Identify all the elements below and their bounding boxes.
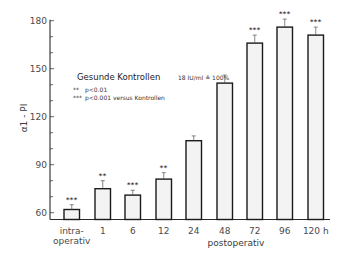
bars: *******************: [64, 10, 324, 219]
x-axis-title: postoperativ: [208, 238, 265, 248]
x-tick-label: 48: [219, 226, 231, 236]
significance-marker: ***: [66, 196, 78, 204]
x-tick-label: 12: [158, 226, 169, 236]
bar-8: ***: [277, 10, 293, 219]
bar-6: [217, 75, 233, 219]
significance-marker: ***: [279, 10, 291, 18]
legend-title: Gesunde Kontrollen: [77, 72, 160, 82]
y-tick-label: 150: [30, 64, 47, 74]
y-tick-label: 60: [36, 208, 48, 218]
significance-marker: ***: [249, 26, 261, 34]
x-tick-label: intra-: [60, 226, 84, 236]
significance-marker: ***: [127, 181, 139, 189]
y-axis: 6090120150180: [30, 16, 54, 220]
y-tick-label: 180: [30, 16, 47, 26]
x-tick-label: 120 h: [303, 226, 329, 236]
legend-reference: 18 IU/ml ≙ 100%: [178, 74, 230, 81]
x-tick-label: 96: [279, 226, 291, 236]
x-tick-label: 6: [130, 226, 136, 236]
legend: Gesunde Kontrollen 18 IU/ml ≙ 100% ** p<…: [73, 72, 230, 102]
x-axis: intra-operativ161224487296120 h: [50, 220, 330, 247]
bar-4: **: [156, 164, 172, 220]
bar-3: ***: [125, 181, 141, 219]
significance-marker: **: [160, 164, 168, 172]
y-axis-title: α1 - PI: [19, 104, 29, 133]
bar-2: **: [95, 172, 111, 220]
legend-note-1-text: p<0.01: [85, 86, 107, 94]
x-tick-label: operativ: [53, 236, 91, 246]
y-tick-label: 90: [36, 160, 48, 170]
significance-marker: **: [99, 172, 107, 180]
legend-note-1-marker: **: [73, 86, 79, 93]
x-tick-label: 1: [100, 226, 106, 236]
legend-note-2-text: p<0.001 versus Kontrollen: [85, 94, 165, 102]
bar-chart: 6090120150180 intra-operativ161224487296…: [0, 0, 352, 263]
y-tick-label: 120: [30, 112, 47, 122]
significance-marker: ***: [310, 18, 322, 26]
x-tick-label: 24: [188, 226, 200, 236]
bar-9: ***: [308, 18, 324, 219]
bar-1: ***: [64, 196, 80, 220]
legend-note-2-marker: ***: [73, 94, 82, 101]
bar-7: ***: [247, 26, 263, 219]
x-tick-label: 72: [249, 226, 260, 236]
bar-5: [186, 136, 202, 220]
